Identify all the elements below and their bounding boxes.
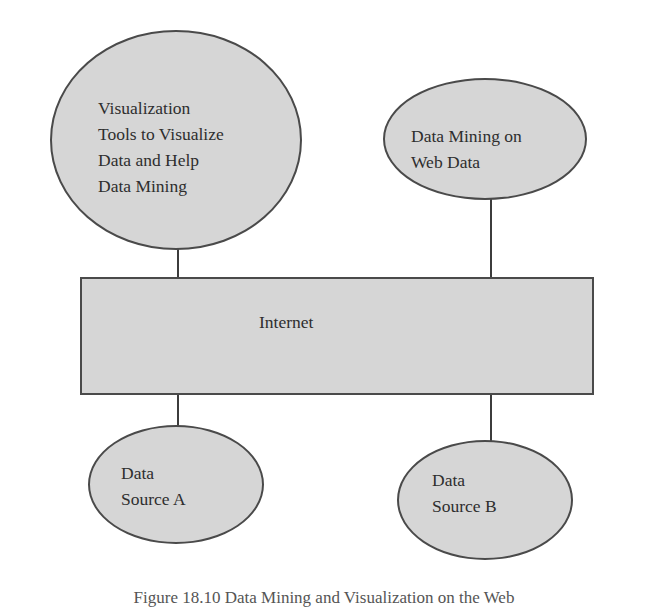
visualization-tools-line-2: Tools to Visualize (98, 121, 224, 147)
visualization-tools-line-4: Data Mining (98, 173, 224, 199)
data-source-b-label: Data Source B (432, 467, 497, 519)
data-source-a-label: Data Source A (121, 460, 186, 512)
figure-caption: Figure 18.10 Data Mining and Visualizati… (0, 588, 648, 607)
visualization-tools-label: Visualization Tools to Visualize Data an… (98, 95, 224, 199)
web-data-mining-label: Data Mining on Web Data (411, 123, 522, 175)
internet-text: Internet (259, 309, 313, 335)
web-data-mining-line-2: Web Data (411, 149, 522, 175)
visualization-tools-line-1: Visualization (98, 95, 224, 121)
web-data-mining-line-1: Data Mining on (411, 123, 522, 149)
data-source-a-line-2: Source A (121, 486, 186, 512)
internet-node (80, 277, 594, 395)
internet-label: Internet (259, 309, 313, 335)
visualization-tools-line-3: Data and Help (98, 147, 224, 173)
data-mining-web-diagram: Visualization Tools to Visualize Data an… (0, 0, 648, 607)
data-source-b-line-2: Source B (432, 493, 497, 519)
data-source-b-line-1: Data (432, 467, 497, 493)
data-source-a-line-1: Data (121, 460, 186, 486)
